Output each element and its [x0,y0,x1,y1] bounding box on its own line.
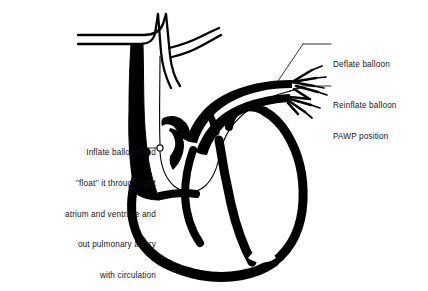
annotation-inflate-line3: atrium and ventricle and [22,210,156,220]
heart-catheter-diagram: Deflate balloon Reinflate balloon PAWP p… [0,0,428,291]
catheter-balloon [157,145,163,151]
aortic-arch-outline [78,14,221,88]
heart-chambers [132,107,303,277]
annotation-reinflate-balloon: Reinflate balloon PAWP position [333,81,397,163]
annotation-inflate-line2: ’’float’’ it through right [22,179,156,189]
annotation-inflate-line4: out pulmonary artery [22,240,156,250]
annotation-deflate-label: Deflate balloon [333,60,390,70]
annotation-reinflate-line1: Reinflate balloon [333,101,397,111]
annotation-inflate-line5: with circulation [22,271,156,281]
pulmonary-artery-branches [288,70,318,114]
cardiac-apex [248,224,276,263]
annotation-reinflate-line2: PAWP position [333,132,397,142]
annotation-inflate-line1: Inflate balloon and [22,148,156,158]
annotation-inflate-balloon: Inflate balloon and ’’float’’ it through… [22,128,156,291]
